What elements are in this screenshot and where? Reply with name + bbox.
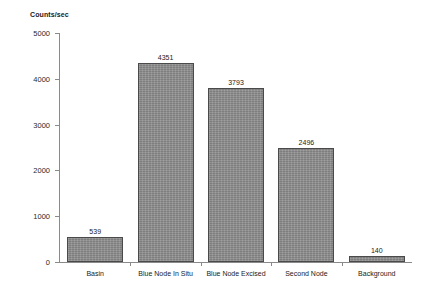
bar-chart: Counts/sec 010002000300040005000 5394351… — [0, 0, 429, 293]
x-axis-category-label: Second Node — [285, 270, 327, 277]
y-axis-tick-label: 3000 — [33, 120, 50, 129]
bar: 2496 — [278, 148, 334, 262]
x-axis-category-label: Background — [358, 270, 395, 277]
bar-item: 140 — [349, 31, 405, 293]
bar-value-label: 539 — [89, 228, 101, 235]
x-axis-category-label: Blue Node In Situ — [138, 270, 192, 277]
y-axis-tick-mark — [55, 79, 60, 80]
x-axis-category-label: Blue Node Excised — [206, 270, 265, 277]
bar-value-label: 140 — [371, 247, 383, 254]
bar: 140 — [349, 256, 405, 262]
y-axis-title: Counts/sec — [30, 11, 69, 18]
bar-item: 539 — [67, 31, 123, 293]
bar-item: 2496 — [278, 31, 334, 293]
x-axis-tick-mark — [342, 262, 343, 266]
y-axis-tick-label: 4000 — [33, 74, 50, 83]
bar: 539 — [67, 237, 123, 262]
x-axis-tick-mark — [271, 262, 272, 266]
y-axis-tick-mark — [55, 33, 60, 34]
y-axis-tick-mark — [55, 262, 60, 263]
y-axis-tick-mark — [55, 170, 60, 171]
bar: 3793 — [208, 88, 264, 262]
bar-value-label: 2496 — [299, 139, 315, 146]
y-axis-tick-mark — [55, 216, 60, 217]
x-axis-tick-mark — [201, 262, 202, 266]
bar-item: 4351 — [138, 31, 194, 293]
y-axis-tick-label: 5000 — [33, 29, 50, 38]
y-axis-tick-label: 1000 — [33, 212, 50, 221]
bar: 4351 — [138, 63, 194, 262]
y-axis-line — [59, 33, 60, 262]
y-axis-tick-mark — [55, 125, 60, 126]
bar-value-label: 3793 — [228, 79, 244, 86]
y-axis-tick-label: 2000 — [33, 166, 50, 175]
x-axis-category-label: Basin — [86, 270, 104, 277]
x-axis-tick-mark — [130, 262, 131, 266]
bar-value-label: 4351 — [158, 54, 174, 61]
bar-item: 3793 — [208, 31, 264, 293]
y-axis-tick-label: 0 — [46, 258, 50, 267]
